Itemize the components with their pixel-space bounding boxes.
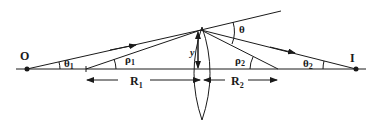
theta1-arc bbox=[59, 62, 60, 69]
incident-ray-arrow bbox=[110, 45, 136, 50]
r2-label: R2 bbox=[231, 74, 244, 90]
theta-arc bbox=[232, 22, 234, 44]
object-point bbox=[25, 67, 30, 72]
image-point bbox=[354, 67, 359, 72]
r1-label: R1 bbox=[130, 74, 143, 90]
object-label: O bbox=[20, 49, 29, 63]
lens-diagram: O I θ1 ρ1 ρ2 θ2 θ y R1 R2 bbox=[0, 0, 377, 128]
image-label: I bbox=[350, 51, 355, 65]
theta-label: θ bbox=[239, 23, 245, 35]
rho1-arc bbox=[114, 59, 116, 69]
refracted-ray-arrow bbox=[270, 47, 295, 53]
rho2-arc bbox=[250, 57, 253, 69]
y-label: y bbox=[189, 47, 195, 58]
rho1-label: ρ1 bbox=[125, 53, 135, 67]
radius-line-1 bbox=[86, 30, 201, 69]
theta2-label: θ2 bbox=[303, 57, 313, 71]
rho2-label: ρ2 bbox=[235, 54, 245, 68]
theta2-arc bbox=[323, 61, 324, 69]
lens bbox=[194, 27, 210, 120]
